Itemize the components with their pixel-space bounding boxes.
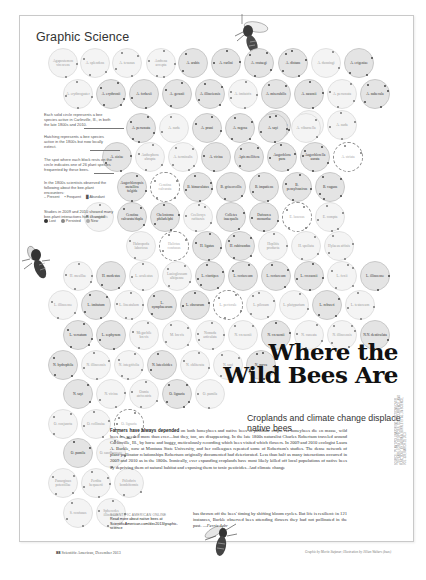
bee-species-label: Augochlorella aurata — [303, 153, 327, 161]
plant-interaction-tick-icon — [223, 334, 225, 336]
plant-interaction-tick-icon — [57, 317, 59, 319]
plant-interaction-tick-icon — [123, 494, 125, 496]
bee-species-label: N. cressonii — [234, 333, 251, 337]
plant-interaction-tick-icon — [130, 155, 132, 157]
bee-species-circle: N. illinoensis — [81, 350, 111, 380]
bee-species-label: Perdita bequaerti — [84, 479, 108, 487]
bee-species-label: N. luteoloides — [152, 363, 172, 367]
bee-species-label: Chelostoma philadelphi — [153, 213, 177, 221]
plant-interaction-tick-icon — [150, 369, 152, 371]
plant-interaction-tick-icon — [132, 138, 134, 140]
plant-interaction-tick-icon — [354, 330, 356, 332]
bee-species-circle: Andrena accepta — [146, 48, 176, 78]
plant-interaction-tick-icon — [168, 384, 170, 386]
plant-interaction-tick-icon — [316, 136, 318, 138]
bee-species-label: A. striata — [341, 155, 354, 159]
bee-species-circle: E. lanosus — [282, 202, 312, 232]
plant-interaction-tick-icon — [123, 208, 125, 210]
plant-interaction-tick-icon — [130, 292, 132, 294]
plant-interaction-tick-icon — [124, 392, 126, 394]
plant-interaction-tick-icon — [204, 206, 206, 208]
plant-interaction-tick-icon — [328, 252, 330, 254]
online-link[interactable]: Read more about native bees at Scientifi… — [110, 517, 190, 531]
plant-interaction-tick-icon — [145, 381, 147, 383]
bee-species-label: L. imitatum — [88, 303, 105, 307]
bee-species-circle: L. pectorale — [213, 290, 243, 320]
bee-species-label: A. distans — [286, 61, 300, 65]
plant-interaction-tick-icon — [341, 138, 343, 140]
article-body-continued: has thrown off the bees' timing by shift… — [193, 511, 347, 529]
plant-interaction-tick-icon — [134, 412, 136, 414]
plant-interaction-tick-icon — [364, 101, 366, 103]
plant-interaction-tick-icon — [340, 178, 342, 180]
page-number: 88 — [56, 550, 60, 555]
plant-interaction-tick-icon — [172, 164, 174, 166]
plant-interaction-tick-icon — [65, 76, 67, 78]
plant-interaction-tick-icon — [142, 304, 144, 306]
bee-species-label: A. sayi — [268, 126, 278, 130]
plant-interaction-tick-icon — [221, 86, 223, 88]
plant-interaction-tick-icon — [72, 492, 74, 494]
plant-interaction-tick-icon — [136, 175, 138, 177]
bee-species-circle: Augochlora pura — [267, 142, 297, 172]
bee-species-circle: N. obliterata — [180, 350, 210, 380]
plant-interaction-tick-icon — [248, 264, 250, 266]
bee-species-circle: N. vicina — [96, 379, 126, 409]
bee-species-label: O. collinsiae — [87, 422, 105, 426]
plant-interaction-tick-icon — [217, 287, 219, 289]
legend-hatched-circle: Hatching represents a bee species active… — [44, 134, 114, 149]
plant-interaction-tick-icon — [273, 300, 275, 302]
plant-interaction-tick-icon — [182, 305, 184, 307]
plant-interaction-tick-icon — [326, 205, 328, 207]
bee-species-label: Hylaeus affinis — [328, 244, 350, 248]
key-abundant: █ Abundant — [86, 195, 105, 200]
plant-interaction-tick-icon — [337, 106, 339, 108]
plant-interaction-tick-icon — [102, 436, 104, 438]
plant-interaction-tick-icon — [143, 224, 145, 226]
plant-interaction-tick-icon — [338, 298, 340, 300]
bee-species-label: M. brevis — [170, 333, 184, 337]
bee-species-label: Anthophora abrupta — [138, 153, 162, 161]
bee-species-circle: A. carlini — [211, 48, 241, 78]
plant-interaction-tick-icon — [89, 294, 91, 296]
bee-species-label: L. nymphaearum — [150, 301, 174, 309]
plant-interaction-tick-icon — [269, 116, 271, 118]
bee-species-circle: Nomada articulata — [195, 320, 225, 350]
bee-species-label: L. illinoense — [54, 303, 72, 307]
plant-interaction-tick-icon — [260, 131, 262, 133]
plant-interaction-tick-icon — [71, 502, 73, 504]
plant-interaction-tick-icon — [121, 375, 123, 377]
plant-interaction-tick-icon — [183, 360, 185, 362]
online-promo: SCIENTIFIC AMERICAN ONLINE Read more abo… — [110, 513, 190, 531]
plant-interaction-tick-icon — [299, 293, 301, 295]
plant-interaction-tick-icon — [233, 257, 235, 259]
bee-species-circle: L. illinoense — [360, 261, 390, 291]
bee-species-label: N. hydrophila — [53, 363, 73, 367]
plant-interaction-tick-icon — [115, 406, 117, 408]
bee-species-circle: N. hydrophila — [48, 350, 78, 380]
bee-species-label: A. arabis — [187, 61, 200, 65]
plant-interaction-tick-icon — [115, 68, 117, 70]
bee-species-label: A. erigeniae — [350, 61, 368, 65]
plant-interaction-tick-icon — [112, 500, 114, 502]
legend-changed-2010: Studies in 2009 and 2010 showed many bee… — [44, 209, 114, 224]
bee-species-circle: N. integrifolia — [114, 350, 144, 380]
plant-interaction-tick-icon — [342, 212, 344, 214]
plant-interaction-tick-icon — [197, 278, 199, 280]
plant-interaction-tick-icon — [335, 287, 337, 289]
plant-interaction-tick-icon — [65, 95, 67, 97]
bee-species-circle: L. coriaceum — [228, 261, 258, 291]
plant-interaction-tick-icon — [185, 239, 187, 241]
plant-interaction-tick-icon — [333, 325, 335, 327]
bee-species-circle: A. nuda — [159, 113, 189, 143]
bee-species-label: A. nuda — [336, 123, 347, 127]
plant-interaction-tick-icon — [131, 75, 133, 77]
plant-interaction-tick-icon — [299, 174, 301, 176]
bee-species-circle: A. nasonii — [294, 79, 324, 109]
bee-species-label: Coelioxys rufitarsis — [186, 213, 210, 221]
article-body-text: on both honeybees and native bees to pol… — [110, 428, 347, 470]
bee-species-circle: A. pruni — [192, 113, 222, 143]
plant-interaction-tick-icon — [188, 401, 190, 403]
bee-species-circle: Anthophora abrupta — [135, 142, 165, 172]
bee-species-label: N. integrifolia — [119, 363, 139, 367]
